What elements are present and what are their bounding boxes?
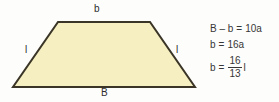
trapezoid-shape bbox=[13, 22, 195, 87]
equation-3-equals: = bbox=[219, 63, 225, 73]
equation-2-lhs: b bbox=[210, 40, 216, 50]
fraction-denominator: 13 bbox=[228, 68, 241, 79]
equation-2-rhs: 16a bbox=[227, 40, 244, 50]
equation-line-3: b = 16 13 l bbox=[210, 56, 279, 79]
label-left-side-l: l bbox=[25, 45, 27, 55]
equation-1-equals: = bbox=[236, 24, 242, 34]
equation-1-rhs: 10a bbox=[245, 24, 262, 34]
trapezoid-drawing-area: b B l l bbox=[0, 0, 200, 102]
label-right-side-l: l bbox=[176, 45, 178, 55]
trapezoid-svg bbox=[0, 0, 200, 102]
equation-1-lhs: B – b bbox=[210, 24, 233, 34]
equation-line-1: B – b = 10a bbox=[210, 24, 279, 34]
equation-3-tail: l bbox=[244, 63, 246, 73]
equation-line-2: b = 16a bbox=[210, 40, 279, 50]
equation-list: B – b = 10a b = 16a b = 16 13 l bbox=[210, 24, 279, 79]
equation-3-lhs: b bbox=[210, 63, 216, 73]
geometry-figure: b B l l B – b = 10a b = 16a b = 16 13 l bbox=[0, 0, 279, 102]
label-top-base-b: b bbox=[94, 4, 100, 14]
equation-2-equals: = bbox=[219, 40, 225, 50]
label-bottom-base-B: B bbox=[101, 88, 108, 98]
fraction-16-over-13: 16 13 bbox=[228, 56, 241, 79]
fraction-numerator: 16 bbox=[228, 56, 241, 67]
